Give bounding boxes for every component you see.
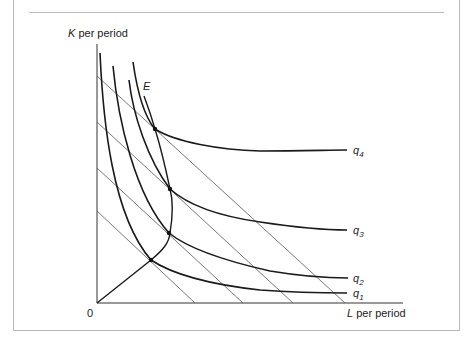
- isoquants: [100, 53, 348, 293]
- isoquant-label-q2: q2: [353, 272, 364, 287]
- y-axis-label: K per period: [68, 27, 128, 39]
- tangency-point-q3: [168, 187, 172, 191]
- isoquant-label-q3: q3: [353, 224, 364, 239]
- isoquant-label-q1: q1: [353, 287, 364, 302]
- isocost-line-1: [97, 211, 195, 303]
- x-axis-label: L per period: [347, 307, 406, 319]
- origin-label: 0: [87, 307, 93, 319]
- expansion-path-label: E: [143, 80, 151, 92]
- isoquant-q1: [100, 53, 347, 293]
- isoquant-q2: [113, 66, 348, 278]
- expansion-path-E: [97, 96, 172, 303]
- isoquant-label-q4: q4: [353, 144, 364, 159]
- expansion-path-diagram: K per period L per period 0 E q4 q3 q2 q…: [0, 0, 470, 345]
- tangency-point-q2: [167, 231, 171, 235]
- isocost-line-3: [97, 122, 293, 303]
- isoquant-q4: [133, 62, 347, 151]
- tangency-point-q1: [149, 258, 153, 262]
- tangency-point-q4: [153, 127, 157, 131]
